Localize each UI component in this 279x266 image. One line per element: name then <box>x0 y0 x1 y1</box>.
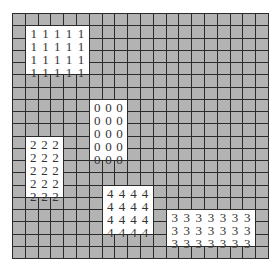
grid-cell <box>231 161 243 172</box>
grid-cell <box>13 112 25 123</box>
grid-cell <box>154 124 166 135</box>
grid-cell <box>167 26 179 37</box>
grid-cell <box>13 51 25 62</box>
grid-cell <box>128 137 140 148</box>
grid-cell <box>26 124 38 135</box>
cell-label: 2 <box>52 151 59 164</box>
grid-cell <box>192 100 204 111</box>
grid-cell <box>13 88 25 99</box>
grid-cell <box>192 186 204 197</box>
grid-cell <box>13 75 25 86</box>
cell-label: 3 <box>244 237 251 250</box>
grid-cell <box>26 222 38 233</box>
grid-cell <box>167 124 179 135</box>
grid-cell <box>90 210 102 221</box>
grid-cell <box>256 222 268 233</box>
grid-cell <box>154 173 166 184</box>
grid-cell <box>167 149 179 160</box>
grid-cell <box>205 173 217 184</box>
grid-cell <box>218 100 230 111</box>
grid-cell <box>115 51 127 62</box>
grid-cell <box>64 14 76 25</box>
grid-cell <box>231 186 243 197</box>
grid-cell <box>218 75 230 86</box>
grid-cell <box>243 149 255 160</box>
grid-cell <box>13 235 25 246</box>
grid-cell <box>243 88 255 99</box>
grid-cell <box>179 14 191 25</box>
cell-label: 4 <box>119 213 126 226</box>
grid-cell <box>205 88 217 99</box>
grid-cell <box>256 186 268 197</box>
grid-cell <box>128 88 140 99</box>
grid-cell <box>141 63 153 74</box>
grid-cell <box>77 235 89 246</box>
grid-cell <box>218 26 230 37</box>
grid-cell <box>192 14 204 25</box>
grid-cell <box>103 247 115 258</box>
grid-cell <box>167 161 179 172</box>
cell-label: 2 <box>30 138 37 151</box>
grid-cell <box>51 210 63 221</box>
grid-cell <box>77 161 89 172</box>
grid-cell <box>256 88 268 99</box>
grid-cell <box>179 112 191 123</box>
grid-cell <box>141 161 153 172</box>
grid-cell <box>51 14 63 25</box>
grid-cell <box>141 124 153 135</box>
grid-cell <box>256 210 268 221</box>
grid-cell <box>13 137 25 148</box>
grid-cell <box>179 137 191 148</box>
grid-cell <box>13 186 25 197</box>
grid-cell <box>64 88 76 99</box>
grid-cell <box>103 51 115 62</box>
grid-cell <box>154 39 166 50</box>
cell-label: 4 <box>107 226 114 239</box>
grid-cell <box>154 51 166 62</box>
grid-cell <box>167 198 179 209</box>
cell-label: 2 <box>41 151 48 164</box>
grid-cell <box>90 186 102 197</box>
grid-cell <box>115 247 127 258</box>
cell-label: 0 <box>94 153 101 166</box>
cell-label: 2 <box>30 177 37 190</box>
grid-cell <box>39 235 51 246</box>
grid-cell <box>90 173 102 184</box>
grid-cell <box>64 100 76 111</box>
grid-cell <box>64 137 76 148</box>
grid-cell <box>154 186 166 197</box>
cell-label: 4 <box>130 200 137 213</box>
grid-cell <box>179 75 191 86</box>
grid-cell <box>192 137 204 148</box>
grid-cell <box>51 112 63 123</box>
grid-cell <box>256 161 268 172</box>
grid-cell <box>243 63 255 74</box>
cell-label: 4 <box>107 213 114 226</box>
cell-label: 4 <box>119 226 126 239</box>
grid-cell <box>103 14 115 25</box>
cell-label: 0 <box>105 114 112 127</box>
grid-cell <box>128 63 140 74</box>
grid-cell <box>39 100 51 111</box>
grid-cell <box>141 26 153 37</box>
grid-cell <box>141 247 153 258</box>
label-block-3: 333333333333333333333 <box>167 210 256 246</box>
grid-cell <box>231 88 243 99</box>
grid-cell <box>218 112 230 123</box>
grid-cell <box>77 14 89 25</box>
grid-cell <box>64 112 76 123</box>
grid-cell <box>77 222 89 233</box>
cell-label: 3 <box>220 237 227 250</box>
cell-label: 1 <box>54 66 61 79</box>
grid-cell <box>90 235 102 246</box>
grid-cell <box>128 14 140 25</box>
grid-cell <box>179 198 191 209</box>
grid-cell <box>154 112 166 123</box>
grid-cell <box>179 161 191 172</box>
grid-cell <box>13 247 25 258</box>
grid-cell <box>256 112 268 123</box>
grid-cell <box>13 124 25 135</box>
grid-cell <box>77 88 89 99</box>
grid-cell <box>167 39 179 50</box>
grid-cell <box>231 39 243 50</box>
